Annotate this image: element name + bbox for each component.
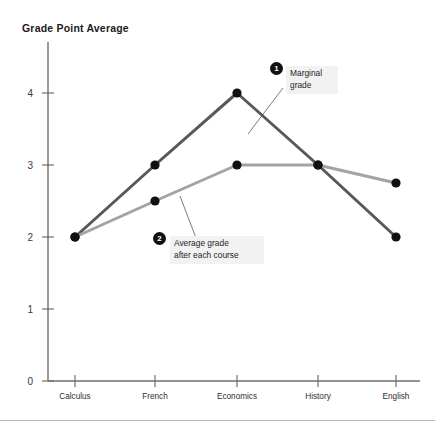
y-tick-label-2: 2 bbox=[27, 232, 33, 243]
x-tick-label-economics: Economics bbox=[217, 392, 257, 401]
x-tick-label-french: French bbox=[142, 392, 168, 401]
line-chart-plot: 4 3 2 1 0 Calculus French Economics Hist… bbox=[0, 0, 435, 428]
data-point-marker bbox=[150, 196, 159, 205]
x-axis-ticks: Calculus French Economics History Englis… bbox=[59, 375, 410, 401]
x-tick-label-calculus: Calculus bbox=[59, 392, 90, 401]
annotation-badge-2: 2 bbox=[153, 232, 166, 245]
data-point-marker bbox=[391, 232, 400, 241]
data-point-marker bbox=[232, 88, 241, 97]
data-point-marker bbox=[313, 160, 322, 169]
y-axis-ticks: 4 3 2 1 0 bbox=[27, 88, 54, 387]
data-point-marker bbox=[232, 160, 241, 169]
x-tick-label-history: History bbox=[305, 392, 331, 401]
y-tick-label-1: 1 bbox=[27, 304, 33, 315]
annotation-badge-1: 1 bbox=[270, 62, 283, 75]
y-tick-label-0: 0 bbox=[27, 376, 33, 387]
y-tick-label-4: 4 bbox=[27, 88, 33, 99]
x-tick-label-english: English bbox=[383, 392, 410, 401]
bottom-divider bbox=[0, 420, 435, 421]
data-point-marker bbox=[391, 178, 400, 187]
annotation-label-average-grade: Average grade after each course bbox=[170, 236, 264, 264]
annotation-label-marginal-grade: Marginal grade bbox=[286, 66, 338, 94]
y-tick-label-3: 3 bbox=[27, 160, 33, 171]
chart-figure: Grade Point Average 4 3 2 1 0 Calculus bbox=[0, 0, 435, 428]
leader-line-marginal-grade bbox=[248, 88, 283, 134]
series-line-2 bbox=[75, 165, 396, 237]
data-point-marker bbox=[70, 232, 79, 241]
series-layer bbox=[70, 88, 400, 241]
data-point-marker bbox=[150, 160, 159, 169]
leader-line-average-grade bbox=[180, 196, 196, 238]
